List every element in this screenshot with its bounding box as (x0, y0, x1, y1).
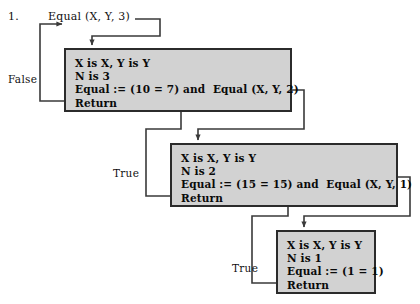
stack-frame-n1: X is X, Y is Y N is 1 Equal := (1 = 1) R… (276, 230, 376, 294)
frame-n1-line-3: Equal := (1 = 1) (287, 265, 365, 278)
branch-label-false: False (8, 73, 37, 85)
root-call-label: Equal (X, Y, 3) (48, 10, 130, 23)
item-number: 1. (8, 10, 19, 23)
frame-n2-line-2: N is 2 (181, 165, 387, 178)
frame-n2-line-3: Equal := (15 = 15) and Equal (X, Y, 1) (181, 178, 387, 191)
frame-n1-line-2: N is 1 (287, 252, 365, 265)
recursion-trace-diagram: 1. Equal (X, Y, 3) False True True X is … (0, 0, 420, 304)
wire-frame1-return-false (40, 24, 64, 101)
stack-frame-n2: X is X, Y is Y N is 2 Equal := (15 = 15)… (170, 143, 398, 207)
frame-n1-line-1: X is X, Y is Y (287, 239, 365, 252)
frame-n2-line-1: X is X, Y is Y (181, 152, 387, 165)
stack-frame-n3: X is X, Y is Y N is 3 Equal := (10 = 7) … (64, 48, 292, 112)
branch-label-true-middle: True (113, 167, 139, 179)
branch-label-true-bottom: True (232, 262, 258, 274)
frame-n3-line-2: N is 3 (75, 70, 281, 83)
frame-n3-line-1: X is X, Y is Y (75, 57, 281, 70)
frame-n3-line-4: Return (75, 97, 281, 110)
frame-n3-line-3: Equal := (10 = 7) and Equal (X, Y, 2) (75, 83, 281, 96)
frame-n2-line-4: Return (181, 192, 387, 205)
frame-n1-line-4: Return (287, 279, 365, 292)
